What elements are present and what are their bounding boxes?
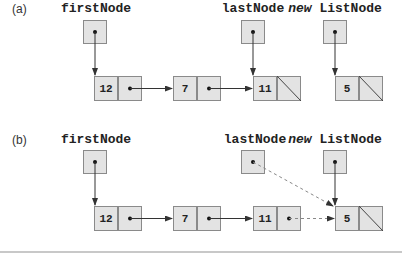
- node-null-cell: [277, 76, 301, 101]
- part-b-label: (b): [12, 133, 27, 147]
- node-next-cell: [118, 206, 142, 231]
- node-data-cell: 12: [94, 206, 118, 231]
- node-null-cell: [359, 206, 383, 231]
- pointer-dots: [93, 30, 337, 221]
- node-data-cell: 5: [335, 206, 359, 231]
- node-data-cell: 7: [173, 76, 197, 101]
- node-next-cell: [197, 76, 221, 101]
- last-node-label-a: lastNode: [222, 1, 284, 16]
- class-name: ListNode: [319, 1, 381, 16]
- first-node-label-a: firstNode: [61, 1, 131, 16]
- first-node-label-b: firstNode: [61, 132, 131, 147]
- last-node-label-b: lastNode: [224, 132, 286, 147]
- new-node-pointer-a: [323, 20, 347, 44]
- node-next-cell: [118, 76, 142, 101]
- solid-arrows: [95, 32, 335, 219]
- last-node-pointer-a: [241, 20, 265, 44]
- part-a-label: (a): [12, 2, 27, 16]
- last-node-pointer-b: [241, 150, 265, 174]
- new-keyword: new: [288, 132, 311, 147]
- node-data-cell: 5: [335, 76, 359, 101]
- first-node-pointer-a: [83, 20, 107, 44]
- new-list-node-label-b: new ListNode: [288, 132, 382, 147]
- node-null-cell: [359, 76, 383, 101]
- node-next-cell: [277, 206, 301, 231]
- new-node-pointer-b: [323, 150, 347, 174]
- class-name: ListNode: [319, 132, 381, 147]
- node-next-cell: [197, 206, 221, 231]
- node-data-cell: 7: [173, 206, 197, 231]
- node-data-cell: 11: [253, 76, 277, 101]
- node-data-cell: 12: [94, 76, 118, 101]
- new-list-node-label-a: new ListNode: [288, 1, 382, 16]
- new-keyword: new: [288, 1, 311, 16]
- first-node-pointer-b: [83, 150, 107, 174]
- bottom-divider: [0, 251, 402, 253]
- node-data-cell: 11: [253, 206, 277, 231]
